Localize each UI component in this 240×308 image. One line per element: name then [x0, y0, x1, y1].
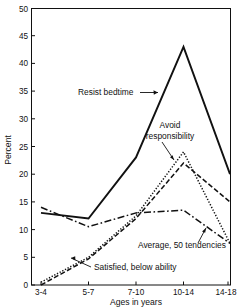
y-tick-label: 20 [19, 170, 29, 179]
y-tick-label: 35 [19, 87, 29, 96]
y-tick-label: 50 [19, 5, 29, 14]
x-tick-label: 14-18 [216, 288, 237, 297]
y-tick-label: 0 [23, 281, 28, 290]
y-tick-label: 45 [19, 32, 29, 41]
annotation-resist-bedtime: Resist bedtime [78, 87, 134, 97]
x-tick-label: 10-14 [173, 288, 194, 297]
y-axis-title: Percent [3, 135, 13, 165]
annotation-avoid-responsibility-line2: responsibility [146, 131, 195, 141]
x-tick-label: 5-7 [83, 288, 95, 297]
y-tick-label: 40 [19, 59, 29, 68]
annotation-satisfied-below-ability: Satisfied, below ability [94, 262, 177, 272]
y-tick-label: 25 [19, 143, 29, 152]
line-chart: 0 5 10 15 20 25 30 35 40 45 50 Percent 3… [0, 0, 240, 308]
y-tick-label: 30 [19, 115, 29, 124]
y-tick-label: 15 [19, 198, 29, 207]
y-tick-label: 10 [19, 226, 29, 235]
y-tick-label: 5 [23, 253, 28, 262]
x-tick-label: 7-10 [128, 288, 145, 297]
x-axis-title: Ages in years [110, 297, 162, 307]
x-tick-label: 3-4 [35, 288, 47, 297]
annotation-avoid-responsibility-line1: Avoid [160, 120, 181, 130]
annotation-average-50-tendencies: Average, 50 tendencies [138, 240, 226, 250]
chart-container: 0 5 10 15 20 25 30 35 40 45 50 Percent 3… [0, 0, 240, 308]
